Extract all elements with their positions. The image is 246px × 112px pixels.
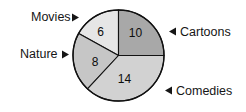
arrow-right-icon-movies: [72, 14, 79, 22]
pie-chart-screenshot: 6 10 8 14 Movies Nature Cartoons Comedie…: [0, 0, 246, 112]
arrow-left-icon-comedies: [165, 87, 172, 95]
arrow-left-icon-cartoons: [169, 28, 176, 36]
pie-label-comedies: Comedies: [176, 84, 232, 98]
pie-label-nature: Nature: [20, 47, 58, 61]
pie-chart: 6 10 8 14 Movies Nature Cartoons Comedie…: [0, 0, 246, 112]
slice-value-movies: 6: [97, 25, 104, 39]
pie-label-cartoons: Cartoons: [180, 25, 231, 39]
slice-value-cartoons: 10: [129, 26, 143, 40]
arrow-right-icon-nature: [62, 51, 69, 59]
pie-label-movies: Movies: [31, 10, 71, 24]
slice-value-nature: 8: [92, 55, 99, 69]
slice-value-comedies: 14: [118, 72, 132, 86]
